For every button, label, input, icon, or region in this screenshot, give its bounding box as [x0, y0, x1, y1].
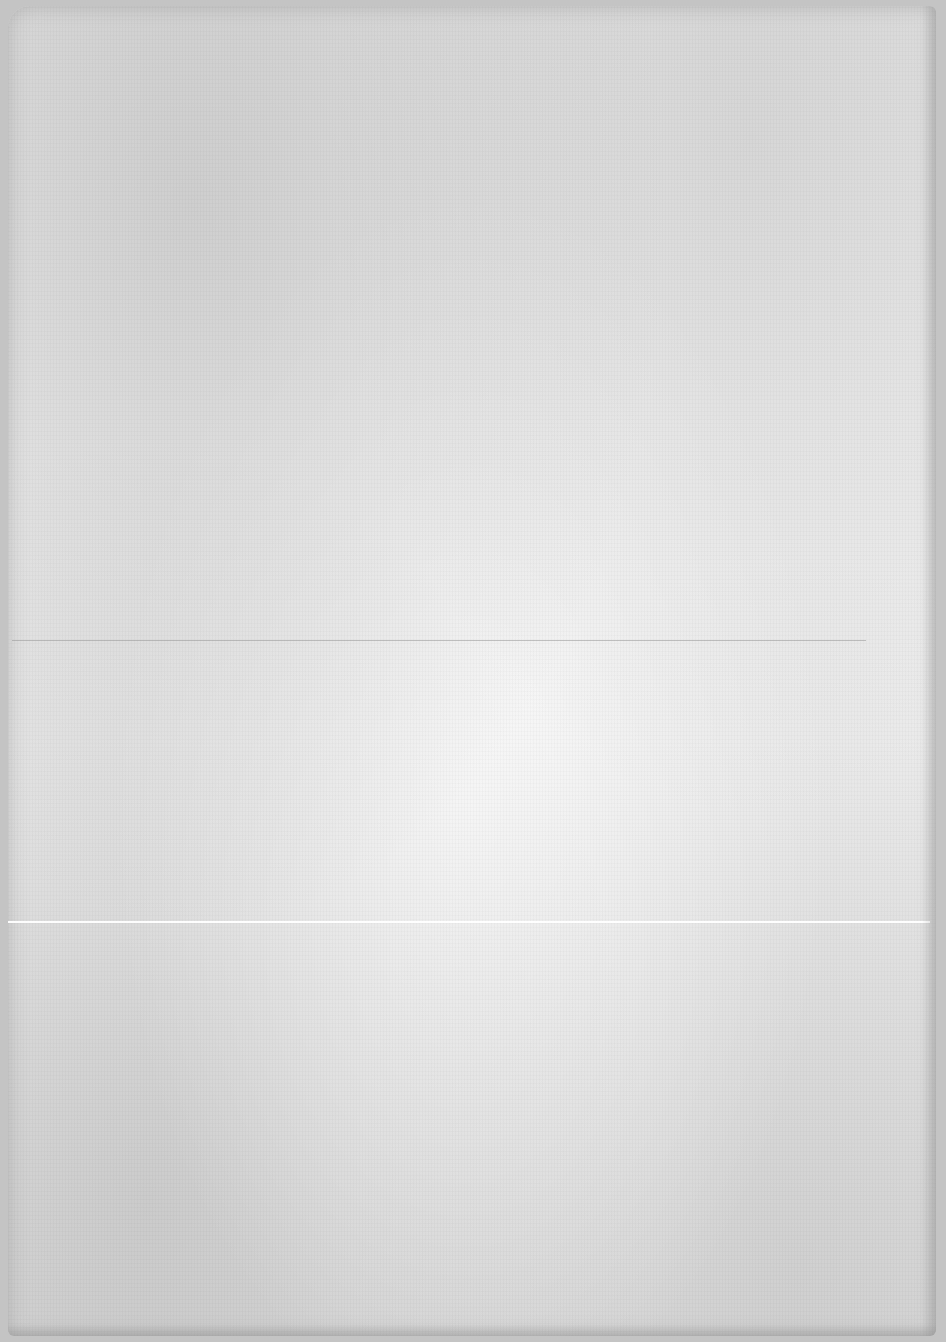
page-edge-shadow-right: [922, 6, 936, 1336]
crease-line: [8, 921, 930, 923]
blank-page: [8, 6, 936, 1336]
page-edge-shadow-bottom: [8, 1324, 936, 1336]
fold-line: [12, 640, 866, 641]
paper-texture: [8, 6, 936, 1336]
scanned-document: [0, 0, 946, 1342]
